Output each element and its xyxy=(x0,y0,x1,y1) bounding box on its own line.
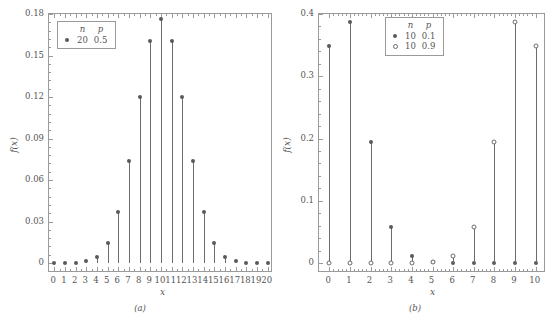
x-tick-bottom xyxy=(172,267,173,271)
x-tick-label: 4 xyxy=(408,275,413,285)
y-tick-minor xyxy=(319,89,321,90)
x-tick-bottom xyxy=(204,267,205,271)
x-tick-minor xyxy=(209,269,210,271)
y-tick-minor xyxy=(319,238,321,239)
y-tick-minor xyxy=(49,105,51,106)
x-tick-bottom xyxy=(433,267,434,271)
x-tick-minor xyxy=(92,269,93,271)
x-tick-label: 15 xyxy=(208,275,219,285)
y-tick-major xyxy=(49,56,53,57)
legend-p-value: 0.5 xyxy=(91,35,111,46)
x-tick-bottom xyxy=(236,267,237,271)
legend-n-value: 10 xyxy=(402,31,419,42)
x-tick-minor xyxy=(113,14,114,16)
y-tick-minor xyxy=(49,80,51,81)
x-tick-minor xyxy=(395,269,396,271)
legend-row: 200.5 xyxy=(62,35,110,46)
data-point-marker xyxy=(138,95,142,99)
y-tick-label: 0.09 xyxy=(25,133,44,143)
x-tick-minor xyxy=(527,14,528,16)
x-tick-label: 10 xyxy=(529,275,540,285)
x-tick-label: 16 xyxy=(219,275,230,285)
x-tick-minor xyxy=(383,14,384,16)
y-tick-label: 0.1 xyxy=(300,195,314,205)
stem-line xyxy=(391,227,392,263)
y-tick-minor xyxy=(319,226,321,227)
data-point-marker xyxy=(148,39,152,43)
data-point-marker xyxy=(127,159,131,163)
x-tick-top xyxy=(246,14,247,18)
y-tick-label: 0.4 xyxy=(300,8,314,18)
x-tick-label: 10 xyxy=(155,275,166,285)
x-tick-minor xyxy=(387,14,388,16)
x-tick-minor xyxy=(81,269,82,271)
data-point-marker xyxy=(95,255,99,259)
x-tick-minor xyxy=(478,14,479,16)
x-axis-title-a: x xyxy=(160,287,165,297)
x-tick-minor xyxy=(70,269,71,271)
x-tick-minor xyxy=(457,14,458,16)
stem-line xyxy=(515,22,516,263)
x-tick-label: 2 xyxy=(72,275,77,285)
x-tick-bottom xyxy=(86,267,87,271)
data-point-marker xyxy=(492,140,497,145)
x-tick-minor xyxy=(379,269,380,271)
x-tick-minor xyxy=(395,14,396,16)
x-tick-top xyxy=(97,14,98,18)
x-tick-label: 13 xyxy=(187,275,198,285)
legend-symbol-header xyxy=(390,20,402,31)
y-tick-minor xyxy=(49,246,51,247)
x-tick-bottom xyxy=(76,267,77,271)
x-tick-label: 9 xyxy=(147,275,152,285)
y-tick-minor xyxy=(319,176,321,177)
y-tick-minor xyxy=(49,205,51,206)
x-tick-bottom xyxy=(246,267,247,271)
x-tick-minor xyxy=(416,14,417,16)
legend-row: 100.1 xyxy=(390,31,438,42)
y-tick-minor xyxy=(49,31,51,32)
x-tick-bottom xyxy=(329,267,330,271)
legend-header-p: p xyxy=(419,20,439,31)
x-tick-label: 9 xyxy=(511,275,516,285)
legend-p-value: 0.1 xyxy=(419,31,439,42)
x-tick-top xyxy=(65,14,66,18)
legend-symbol-header xyxy=(62,24,74,35)
y-tick-major xyxy=(319,14,323,15)
x-tick-minor xyxy=(362,269,363,271)
x-tick-top xyxy=(453,14,454,18)
stem-line xyxy=(494,142,495,263)
x-tick-minor xyxy=(375,14,376,16)
data-point-marker xyxy=(513,20,518,25)
x-tick-minor xyxy=(102,269,103,271)
x-tick-minor xyxy=(470,14,471,16)
data-point-marker xyxy=(63,261,67,265)
x-tick-bottom xyxy=(65,267,66,271)
x-tick-label: 4 xyxy=(93,275,98,285)
x-tick-top xyxy=(350,14,351,18)
x-tick-label: 11 xyxy=(165,275,176,285)
y-tick-label: 0.3 xyxy=(300,70,314,80)
x-tick-minor xyxy=(342,269,343,271)
stem-line xyxy=(329,46,330,263)
plot-area-a xyxy=(48,13,272,272)
x-tick-bottom xyxy=(412,267,413,271)
x-tick-bottom xyxy=(268,267,269,271)
x-tick-top xyxy=(76,14,77,18)
x-tick-bottom xyxy=(257,267,258,271)
y-tick-minor xyxy=(319,26,321,27)
x-tick-top xyxy=(214,14,215,18)
panel-caption-a: (a) xyxy=(0,303,280,313)
x-tick-bottom xyxy=(150,267,151,271)
y-tick-minor xyxy=(49,39,51,40)
x-tick-minor xyxy=(441,269,442,271)
data-point-marker xyxy=(266,261,270,265)
x-tick-bottom xyxy=(97,267,98,271)
x-tick-minor xyxy=(523,269,524,271)
y-tick-minor xyxy=(49,72,51,73)
stem-line xyxy=(172,41,173,263)
x-tick-minor xyxy=(532,269,533,271)
y-tick-minor xyxy=(319,114,321,115)
y-tick-label: 0.2 xyxy=(300,133,314,143)
x-tick-minor xyxy=(511,269,512,271)
stem-line xyxy=(108,243,109,263)
